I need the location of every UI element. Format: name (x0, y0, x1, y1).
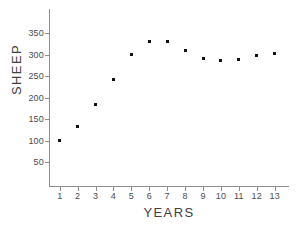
data-point (202, 57, 205, 60)
plot-area (0, 0, 296, 226)
data-point (76, 125, 79, 128)
x-axis-title: YEARS (49, 205, 289, 220)
data-point (255, 54, 258, 57)
data-point (184, 49, 187, 52)
scatter-chart: 5010015020025030035012345678910111213 SH… (0, 0, 296, 226)
data-point (130, 53, 133, 56)
data-point (58, 139, 61, 142)
data-point (237, 58, 240, 61)
data-point (112, 78, 115, 81)
y-axis-title: SHEEP (9, 30, 24, 110)
data-point (166, 40, 169, 43)
data-point (219, 59, 222, 62)
data-point (94, 103, 97, 106)
data-point (148, 40, 151, 43)
data-point (273, 52, 276, 55)
